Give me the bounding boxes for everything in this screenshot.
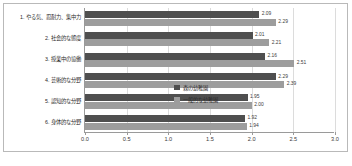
- bar-series-forest: [85, 32, 253, 39]
- bar-value-label: 2.00: [254, 103, 264, 108]
- chart-legend: 森の幼稚園一般的な幼稚園: [174, 84, 218, 108]
- bar-series-general: [85, 102, 252, 109]
- category-label: 6. 身体的な分野: [3, 119, 85, 125]
- bar-group: 1. やる気、忍耐力、集中力2.092.29: [85, 8, 334, 29]
- x-axis-tick: [335, 132, 336, 135]
- bar-value-label: 1.95: [250, 95, 260, 100]
- bar-series-general: [85, 60, 294, 67]
- x-axis-tick-label: 1.0: [164, 136, 172, 142]
- x-axis-tick-label: 0.0: [81, 136, 89, 142]
- bar-group: 3. 授業中の協働2.162.51: [85, 50, 334, 71]
- category-label: 2. 社会的な態度: [3, 35, 85, 41]
- x-gridline: [335, 8, 336, 132]
- bar-series-forest: [85, 73, 276, 80]
- category-label: 1. やる気、忍耐力、集中力: [3, 14, 85, 20]
- bar-series-forest: [85, 115, 245, 122]
- bar-value-label: 1.94: [249, 124, 259, 129]
- x-axis-tick-label: 0.5: [123, 136, 131, 142]
- bar-group: 2. 社会的な態度2.012.21: [85, 29, 334, 50]
- bar-value-label: 1.92: [248, 116, 258, 121]
- legend-label: 一般的な幼稚園: [183, 96, 218, 103]
- legend-label: 森の幼稚園: [183, 84, 208, 91]
- plot-area: 0.00.51.01.52.02.53.01. やる気、忍耐力、集中力2.092…: [84, 8, 334, 133]
- legend-item[interactable]: 一般的な幼稚園: [174, 96, 218, 103]
- x-axis-tick-label: 3.0: [331, 136, 339, 142]
- bar-series-forest: [85, 53, 265, 60]
- x-axis-tick-label: 2.5: [289, 136, 297, 142]
- x-axis-tick-label: 1.5: [206, 136, 214, 142]
- bar-group: 6. 身体的な分野1.921.94: [85, 112, 334, 133]
- bar-value-label: 2.29: [278, 20, 288, 25]
- legend-item[interactable]: 森の幼稚園: [174, 84, 218, 91]
- legend-swatch-icon: [174, 97, 180, 103]
- category-label: 4. 芸術的な分野: [3, 77, 85, 83]
- bar-series-general: [85, 19, 276, 26]
- bar-value-label: 2.09: [262, 12, 272, 17]
- bar-series-general: [85, 39, 269, 46]
- category-label: 3. 授業中の協働: [3, 56, 85, 62]
- bar-series-general: [85, 123, 247, 130]
- bar-value-label: 2.21: [272, 41, 282, 46]
- bar-value-label: 2.39: [287, 82, 297, 87]
- bar-value-label: 2.29: [278, 75, 288, 80]
- chart-container: 0.00.51.01.52.02.53.01. やる気、忍耐力、集中力2.092…: [0, 0, 352, 166]
- bar-value-label: 2.01: [255, 33, 265, 38]
- category-label: 5. 認知的な分野: [3, 98, 85, 104]
- x-axis-tick-label: 2.0: [248, 136, 256, 142]
- legend-swatch-icon: [174, 85, 180, 91]
- bar-value-label: 2.51: [297, 61, 307, 66]
- bar-series-forest: [85, 94, 248, 101]
- bar-series-forest: [85, 11, 259, 18]
- bar-value-label: 2.16: [268, 54, 278, 59]
